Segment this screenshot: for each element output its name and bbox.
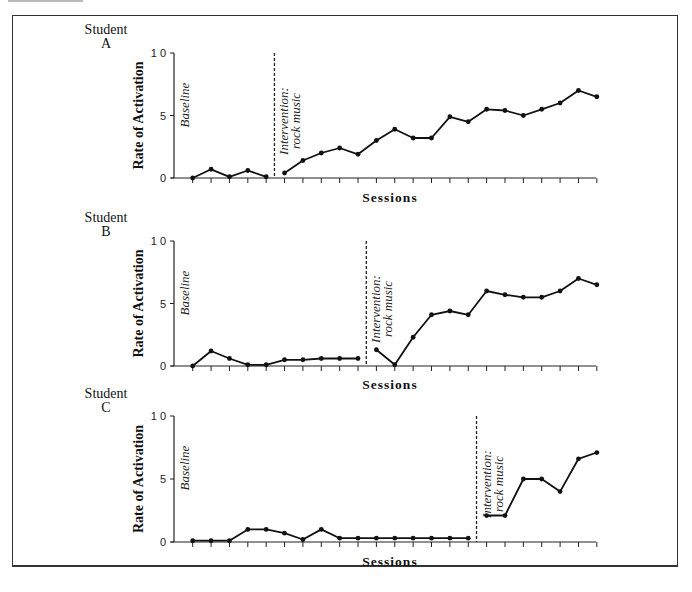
data-point — [319, 151, 324, 156]
intervention-phase-sublabel: rock music — [491, 456, 506, 512]
data-point — [539, 107, 544, 112]
data-point — [337, 356, 342, 361]
data-point — [190, 538, 195, 543]
data-point — [264, 174, 269, 179]
data-point — [466, 536, 471, 541]
data-point — [484, 513, 489, 518]
data-point — [319, 356, 324, 361]
data-point — [374, 536, 379, 541]
y-tick-label: 1 0 — [151, 235, 166, 247]
y-tick-label: 0 — [160, 172, 166, 184]
data-point — [356, 356, 361, 361]
data-point — [190, 364, 195, 369]
data-point — [374, 347, 379, 352]
baseline-phase-label: Baseline — [177, 445, 192, 490]
data-point — [209, 538, 214, 543]
x-axis-title: Sessions — [362, 377, 417, 392]
multiple-baseline-chart: 051 0Rate of ActivationSessionsBaselineI… — [0, 0, 692, 592]
data-point — [447, 309, 452, 314]
data-point — [209, 167, 214, 172]
data-point — [264, 362, 269, 367]
y-tick-label: 1 0 — [151, 47, 166, 59]
data-point — [374, 138, 379, 143]
baseline-series-line — [193, 529, 469, 540]
data-point — [411, 136, 416, 141]
data-point — [558, 489, 563, 494]
data-point — [429, 312, 434, 317]
data-point — [190, 176, 195, 181]
baseline-phase-label: Baseline — [177, 82, 192, 127]
baseline-series-line — [193, 351, 358, 366]
y-tick-label: 5 — [160, 110, 166, 122]
intervention-phase-sublabel: rock music — [380, 281, 395, 337]
data-point — [558, 101, 563, 106]
data-point — [209, 349, 214, 354]
data-point — [594, 450, 599, 455]
x-axis-title: Sessions — [362, 554, 417, 569]
data-point — [447, 114, 452, 119]
data-point — [521, 295, 526, 300]
data-point — [576, 88, 581, 93]
data-point — [392, 536, 397, 541]
data-point — [227, 174, 232, 179]
data-point — [245, 527, 250, 532]
data-point — [356, 536, 361, 541]
intervention-series-line — [285, 91, 597, 174]
data-point — [301, 158, 306, 163]
y-tick-label: 0 — [160, 360, 166, 372]
data-point — [227, 538, 232, 543]
data-point — [429, 136, 434, 141]
data-point — [282, 357, 287, 362]
data-point — [521, 477, 526, 482]
data-point — [558, 289, 563, 294]
data-point — [503, 513, 508, 518]
y-tick-label: 1 0 — [151, 410, 166, 422]
y-tick-label: 0 — [160, 536, 166, 548]
data-point — [264, 527, 269, 532]
data-point — [392, 127, 397, 132]
y-tick-label: 5 — [160, 298, 166, 310]
data-point — [503, 292, 508, 297]
data-point — [411, 335, 416, 340]
data-point — [484, 289, 489, 294]
data-point — [319, 527, 324, 532]
data-point — [576, 456, 581, 461]
data-point — [429, 536, 434, 541]
y-axis-title: Rate of Activation — [131, 61, 146, 169]
data-point — [539, 295, 544, 300]
data-point — [594, 282, 599, 287]
intervention-phase-sublabel: rock music — [288, 93, 303, 149]
baseline-phase-label: Baseline — [177, 270, 192, 315]
data-point — [392, 362, 397, 367]
data-point — [337, 146, 342, 151]
y-tick-label: 5 — [160, 473, 166, 485]
y-axis-title: Rate of Activation — [131, 249, 146, 357]
data-point — [282, 531, 287, 536]
data-point — [245, 362, 250, 367]
data-point — [301, 357, 306, 362]
data-point — [337, 536, 342, 541]
data-point — [484, 107, 489, 112]
data-point — [594, 94, 599, 99]
data-point — [301, 537, 306, 542]
data-point — [576, 276, 581, 281]
data-point — [503, 108, 508, 113]
data-point — [227, 356, 232, 361]
x-axis-title: Sessions — [362, 190, 417, 205]
data-point — [245, 168, 250, 173]
data-point — [466, 119, 471, 124]
data-point — [282, 171, 287, 176]
data-point — [356, 152, 361, 157]
data-point — [539, 477, 544, 482]
data-point — [447, 536, 452, 541]
data-point — [466, 312, 471, 317]
data-point — [411, 536, 416, 541]
y-axis-title: Rate of Activation — [131, 425, 146, 533]
data-point — [521, 113, 526, 118]
